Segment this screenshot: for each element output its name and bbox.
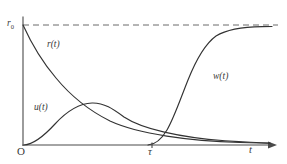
- y-axis-level-label-r0: r0: [7, 19, 14, 30]
- curve-label-u-of-t: u(t): [34, 103, 48, 113]
- figure-canvas: r0 r(t) u(t) w(t) O τ t: [0, 0, 287, 164]
- curve-r-of-t: [23, 25, 270, 143]
- level-label-subscript: 0: [11, 23, 14, 30]
- curve-label-w-of-t: w(t): [213, 72, 228, 82]
- plot-area: [0, 0, 287, 164]
- curve-u-of-t: [24, 103, 270, 145]
- x-axis-tick-label-tau: τ: [148, 147, 152, 158]
- curve-label-r-of-t: r(t): [47, 40, 60, 50]
- curve-w-of-t: [148, 27, 272, 145]
- x-axis-label: t: [249, 145, 252, 156]
- origin-label: O: [17, 146, 25, 157]
